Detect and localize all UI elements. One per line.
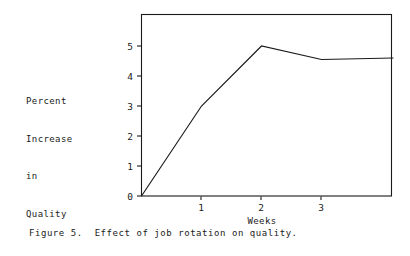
x-tick-label-1: 1 [198,202,204,213]
plot-frame [142,15,392,197]
x-axis-ticks [201,197,321,201]
y-tick-label-2: 2 [127,131,133,142]
x-axis-tick-labels: 1 2 3 [198,202,324,213]
y-tick-label-3: 3 [127,101,133,112]
y-axis-ticks [137,46,142,196]
y-tick-label-4: 4 [127,71,133,82]
x-tick-label-2: 2 [258,202,264,213]
y-tick-label-1: 1 [127,161,133,172]
figure-container: Percent Increase in Quality 0 1 2 3 4 5 [0,0,410,256]
line-chart: 0 1 2 3 4 5 1 2 3 Weeks [0,0,410,256]
data-series-line [142,46,394,196]
x-tick-label-3: 3 [318,202,324,213]
y-tick-label-0: 0 [127,191,133,202]
y-tick-label-5: 5 [127,41,133,52]
x-axis-title: Weeks [247,216,276,226]
y-axis-tick-labels: 0 1 2 3 4 5 [127,41,133,202]
figure-caption: Figure 5. Effect of job rotation on qual… [29,228,298,238]
